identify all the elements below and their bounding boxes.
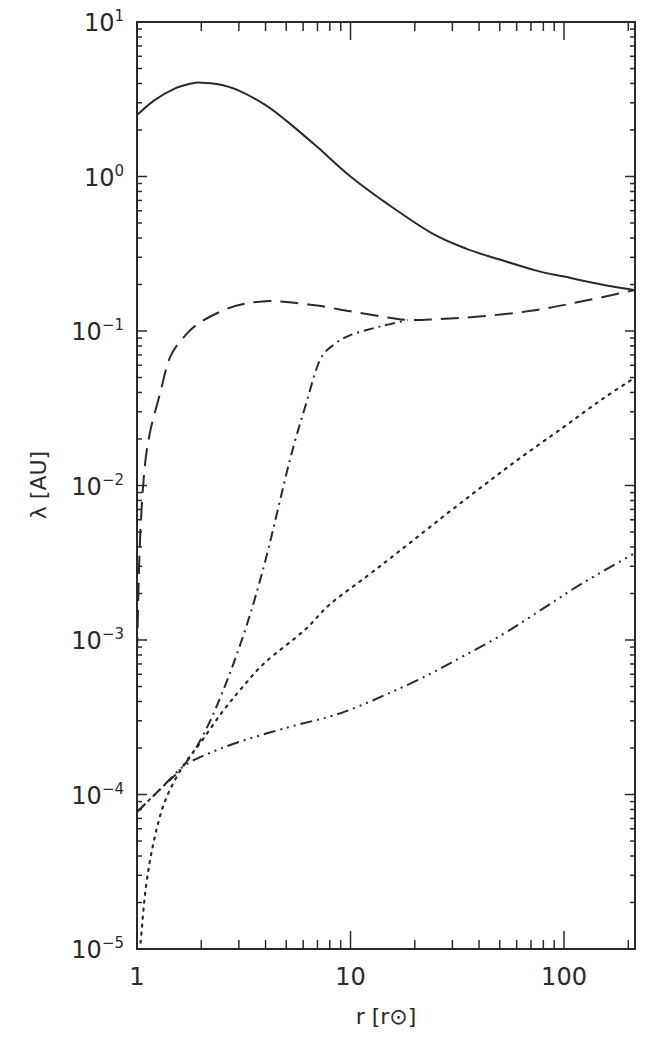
y-tick-label: 10−5 [71,934,124,964]
y-tick-label: 10−4 [71,780,124,810]
x-axis-title: r [r⊙] [356,1004,417,1029]
y-tick-label: 10−3 [71,625,124,655]
series-line-dash-dot [137,320,408,812]
x-tick-labels: 110100 [129,963,587,991]
series-line-dash-dot-dot-dot [137,553,635,812]
chart: 110100 10110010−110−210−310−410−5 r [r⊙]… [0,0,652,1042]
x-tick-label: 100 [541,963,587,991]
series-line-dotted [141,378,635,943]
y-axis-title: λ [AU] [26,451,51,519]
y-tick-label: 10−2 [71,471,124,501]
series-layer [137,83,635,943]
x-tick-label: 1 [129,963,144,991]
series-line-solid [137,83,635,291]
x-tick-label: 10 [335,963,366,991]
series-line-long-dash [137,290,635,655]
y-tick-labels: 10110010−110−210−310−410−5 [71,7,124,964]
axis-ticks [137,22,635,949]
y-tick-label: 101 [84,7,124,37]
y-tick-label: 10−1 [71,316,124,346]
plot-frame [137,22,635,949]
y-tick-label: 100 [84,162,124,192]
